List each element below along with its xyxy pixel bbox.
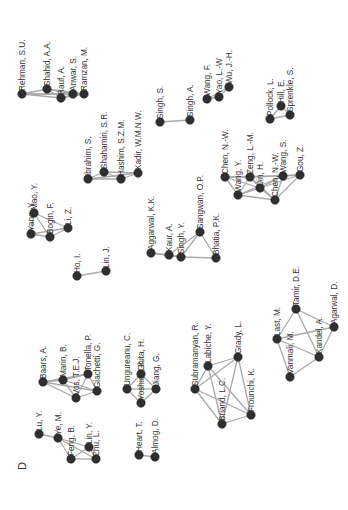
author-label: Wang, F. bbox=[203, 64, 212, 96]
author-node: Jiang, G. bbox=[152, 353, 161, 393]
author-label: Wu, J.-H. bbox=[225, 50, 234, 84]
author-node: Sangwan, O.P. bbox=[196, 175, 205, 236]
author-node: Rehman, S.U. bbox=[18, 40, 27, 99]
author-node: Tonella, P. bbox=[84, 334, 93, 378]
author-label: Zhu, L. bbox=[92, 431, 101, 457]
author-node: Frounchi, K. bbox=[247, 368, 256, 419]
author-label: Grady, L. bbox=[234, 321, 243, 354]
author-label: Almog, D. bbox=[151, 418, 160, 454]
author-node: Ungureanu, C. bbox=[123, 333, 132, 393]
author-node: Tamir, D.E. bbox=[292, 266, 301, 313]
author-label: Chen, N.-W. bbox=[221, 129, 230, 174]
author-node: Bogin, F. bbox=[46, 202, 55, 241]
author-label: Singh, Y. bbox=[177, 222, 186, 254]
author-node: Pollock, L. bbox=[266, 78, 275, 123]
author-node: Kandel, A. bbox=[315, 317, 324, 362]
author-node: Ho, I. bbox=[73, 253, 82, 280]
author-node: Wang, S. bbox=[279, 140, 288, 181]
author-node: Hashim, S.Z.M. bbox=[117, 120, 126, 184]
author-label: Ghita, H. bbox=[137, 339, 146, 371]
author-node: Briand, L.C. bbox=[218, 378, 227, 428]
author-node: Vanmali, M. bbox=[286, 331, 295, 381]
author-label: Pollock, L. bbox=[266, 78, 275, 116]
author-label: Baars, A. bbox=[39, 346, 48, 379]
author-node: Lin, J. bbox=[102, 246, 111, 275]
author-node: Wu, J.-H. bbox=[225, 50, 234, 91]
author-node: Almog, D. bbox=[151, 418, 160, 461]
coauthorship-network-diagram: D Rehman, S.U.Shahid, A.A.Rauf, A.Anwar,… bbox=[0, 0, 348, 510]
author-node: Vos, T.E.J. bbox=[72, 356, 81, 402]
author-label: Tamir, D.E. bbox=[292, 266, 301, 306]
author-label: Vos, T.E.J. bbox=[72, 356, 81, 395]
author-label: Ye, M. bbox=[54, 412, 63, 435]
author-node: Kaur, A. bbox=[165, 223, 174, 259]
nodes-layer: Rehman, S.U.Shahid, A.A.Rauf, A.Anwar, S… bbox=[18, 40, 339, 464]
author-label: Sangwan, O.P. bbox=[196, 175, 205, 229]
author-node: Labiche, Y. bbox=[204, 323, 213, 370]
author-label: Jin, H. bbox=[256, 162, 265, 185]
author-node: Grady, L. bbox=[234, 321, 243, 361]
panel-label: D bbox=[16, 462, 28, 470]
author-label: Agarwal, D. bbox=[330, 282, 339, 324]
author-label: Bhatia, P.K. bbox=[212, 213, 221, 255]
author-label: Briand, L.C. bbox=[218, 378, 227, 421]
author-node: Aggarwal, K.K. bbox=[147, 196, 156, 257]
author-node: Gou, Z. bbox=[296, 145, 305, 180]
author-label: Subramanyan, R. bbox=[191, 322, 200, 386]
author-node: Heart, T. bbox=[135, 421, 144, 459]
author-node: Singh, A. bbox=[186, 84, 195, 124]
author-label: Shahamiri, S.R. bbox=[100, 112, 109, 169]
author-label: Li, Z. bbox=[64, 207, 73, 225]
author-node: Ghita, H. bbox=[137, 339, 146, 379]
author-label: Ungureanu, C. bbox=[123, 333, 132, 386]
author-label: Bogin, F. bbox=[46, 202, 55, 234]
author-node: Shahid, A.A. bbox=[43, 41, 52, 93]
author-label: Last, M. bbox=[273, 307, 282, 336]
author-label: Mao, Y. bbox=[30, 183, 39, 210]
author-node: Chen, N.-W. bbox=[221, 129, 230, 181]
author-label: Sprenkle, S. bbox=[286, 67, 295, 112]
author-node: Ye, M. bbox=[54, 412, 63, 442]
author-label: Wang, Y. bbox=[234, 160, 243, 192]
author-node: Giachetti, G. bbox=[93, 342, 102, 395]
author-label: Aggarwal, K.K. bbox=[147, 196, 156, 250]
author-label: Ibrahim, S. bbox=[84, 136, 93, 176]
author-node: Hill, E. bbox=[277, 79, 286, 110]
author-label: Hashim, S.Z.M. bbox=[117, 120, 126, 176]
author-node: Li, Z. bbox=[64, 207, 73, 232]
author-label: Feng, B. bbox=[67, 425, 76, 456]
author-label: Kadir, W.M.N.W. bbox=[134, 110, 143, 170]
author-label: Giachetti, G. bbox=[93, 342, 102, 388]
author-label: Wang, S. bbox=[279, 140, 288, 173]
author-label: Ho, I. bbox=[73, 253, 82, 273]
author-label: Lu, Y. bbox=[35, 411, 44, 431]
author-node: Marin, B. bbox=[59, 344, 68, 384]
author-label: Shahid, A.A. bbox=[43, 41, 52, 86]
coauthor-edge bbox=[277, 339, 319, 357]
coauthor-edge bbox=[160, 120, 190, 122]
author-label: Frounchi, K. bbox=[247, 368, 256, 412]
author-node: Ramzan, M. bbox=[80, 47, 89, 98]
author-label: Anwar, S. bbox=[69, 56, 78, 91]
author-label: Vanmali, M. bbox=[286, 331, 295, 374]
author-label: Hill, E. bbox=[277, 79, 286, 103]
author-label: Kaur, A. bbox=[165, 223, 174, 252]
author-label: Tonella, P. bbox=[84, 334, 93, 371]
author-label: Rehman, S.U. bbox=[18, 40, 27, 91]
author-node: Baars, A. bbox=[39, 346, 48, 386]
author-node: Wang, F. bbox=[203, 64, 212, 103]
author-node: Subramanyan, R. bbox=[191, 322, 200, 393]
author-label: Rauf, A. bbox=[57, 66, 66, 95]
author-node: Kadir, W.M.N.W. bbox=[134, 110, 143, 177]
author-node: Last, M. bbox=[273, 307, 282, 343]
author-node: Lu, Y. bbox=[35, 411, 44, 438]
author-node: Jin, H. bbox=[256, 162, 265, 192]
author-label: Yao, L.-W bbox=[215, 58, 224, 94]
author-node: Rauf, A. bbox=[57, 66, 66, 102]
author-label: Heart, T. bbox=[135, 421, 144, 452]
author-node: Bhatia, P.K. bbox=[212, 213, 221, 262]
author-node: Zhu, L. bbox=[92, 431, 101, 464]
author-label: Labiche, Y. bbox=[204, 323, 213, 363]
author-label: Gou, Z. bbox=[296, 145, 305, 172]
author-label: Singh, S. bbox=[156, 86, 165, 119]
